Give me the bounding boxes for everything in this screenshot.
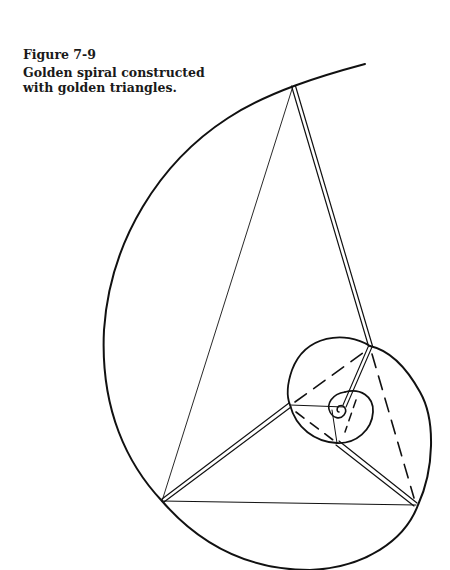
inner-vertical-line (332, 410, 337, 443)
golden-spiral-diagram (0, 0, 450, 570)
double-line-left (162, 403, 291, 502)
inner-horizontal-line (290, 405, 344, 407)
double-line-right (336, 441, 417, 506)
dashed-line-p2-p1 (295, 350, 367, 402)
spiral-outer-arc (104, 64, 431, 570)
triangle-left-edge (162, 86, 293, 501)
double-line-apex (292, 86, 373, 346)
spiral-middle-arc (288, 337, 373, 443)
dashed-line-p1-right (372, 354, 414, 498)
triangle-base (162, 501, 416, 505)
